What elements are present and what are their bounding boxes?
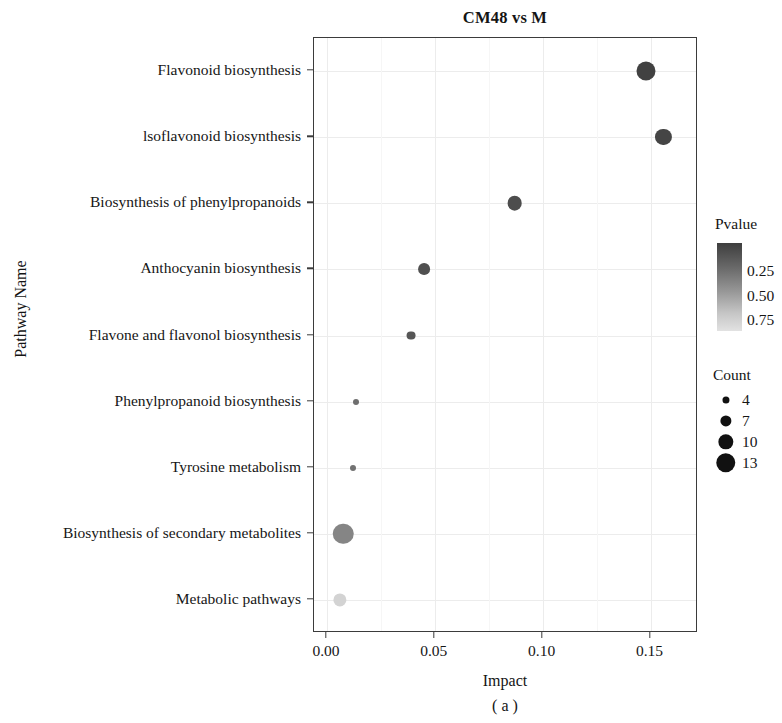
gridline-horizontal: [314, 534, 696, 535]
data-point-bubble: [637, 62, 656, 81]
data-point-bubble: [353, 399, 359, 405]
y-axis-tick-mark: [307, 268, 313, 269]
data-point-bubble: [333, 524, 354, 545]
gridline-vertical: [435, 38, 436, 631]
pvalue-legend-title: Pvalue: [715, 215, 757, 233]
y-axis-tick-mark: [307, 532, 313, 533]
x-axis-tick-mark: [541, 632, 542, 638]
y-axis-tick-mark: [307, 135, 313, 136]
pvalue-colorbar: [717, 243, 742, 331]
x-axis-tick-mark: [325, 632, 326, 638]
gridline-horizontal: [314, 269, 696, 270]
count-legend-dot: [716, 453, 735, 472]
y-axis-title: Pathway Name: [12, 239, 30, 379]
figure-caption: ( a ): [313, 697, 697, 715]
count-legend-label: 13: [742, 454, 758, 472]
x-axis-tick-mark: [649, 632, 650, 638]
data-point-bubble: [655, 129, 671, 145]
count-legend-dot: [720, 415, 731, 426]
x-axis-tick-label: 0.05: [420, 642, 447, 660]
count-legend-label: 10: [742, 433, 758, 451]
y-axis-tick-label: Anthocyanin biosynthesis: [140, 259, 301, 277]
count-legend-dot: [718, 434, 733, 449]
y-axis-tick-label: Phenylpropanoid biosynthesis: [115, 392, 301, 410]
gridline-horizontal: [314, 137, 696, 138]
y-axis-tick-label: Flavonoid biosynthesis: [158, 61, 301, 79]
gridline-vertical: [651, 38, 652, 631]
y-axis-tick-mark: [307, 466, 313, 467]
data-point-bubble: [418, 263, 430, 275]
x-axis-tick-label: 0.10: [528, 642, 555, 660]
pvalue-legend-tick-label: 0.50: [747, 287, 774, 305]
y-axis-tick-label: Biosynthesis of secondary metabolites: [63, 524, 301, 542]
gridline-vertical-minor: [381, 38, 382, 631]
gridline-vertical-minor: [597, 38, 598, 631]
y-axis-tick-mark: [307, 69, 313, 70]
data-point-bubble: [507, 196, 522, 211]
y-axis-tick-label: Metabolic pathways: [176, 590, 301, 608]
x-axis-tick-mark: [433, 632, 434, 638]
y-axis-tick-mark: [307, 400, 313, 401]
pvalue-legend-tick-label: 0.75: [747, 311, 774, 329]
pvalue-legend-tick-label: 0.25: [747, 262, 774, 280]
gridline-vertical-minor: [489, 38, 490, 631]
gridline-horizontal: [314, 468, 696, 469]
count-legend-label: 4: [742, 391, 750, 409]
y-axis-tick-mark: [307, 334, 313, 335]
y-axis-tick-label: Tyrosine metabolism: [171, 458, 301, 476]
plot-area: [313, 37, 697, 632]
x-axis-tick-label: 0.15: [636, 642, 663, 660]
gridline-horizontal: [314, 402, 696, 403]
count-legend-title: Count: [713, 366, 751, 384]
x-axis-title: Impact: [313, 672, 697, 690]
gridline-vertical: [327, 38, 328, 631]
data-point-bubble: [333, 593, 346, 606]
y-axis-tick-label: lsoflavonoid biosynthesis: [143, 127, 301, 145]
gridline-horizontal: [314, 203, 696, 204]
gridline-vertical: [543, 38, 544, 631]
data-point-bubble: [407, 331, 416, 340]
gridline-horizontal: [314, 336, 696, 337]
y-axis-tick-mark: [307, 202, 313, 203]
chart-title: CM48 vs M: [313, 8, 697, 28]
x-axis-tick-label: 0.00: [312, 642, 339, 660]
data-point-bubble: [350, 465, 356, 471]
y-axis-tick-mark: [307, 598, 313, 599]
y-axis-tick-label: Biosynthesis of phenylpropanoids: [90, 193, 301, 211]
y-axis-tick-label: Flavone and flavonol biosynthesis: [89, 326, 301, 344]
gridline-horizontal: [314, 600, 696, 601]
figure-panel-a: CM48 vs M Flavonoid biosynthesislsoflavo…: [0, 0, 782, 723]
count-legend-dot: [722, 396, 729, 403]
count-legend-label: 7: [742, 412, 750, 430]
